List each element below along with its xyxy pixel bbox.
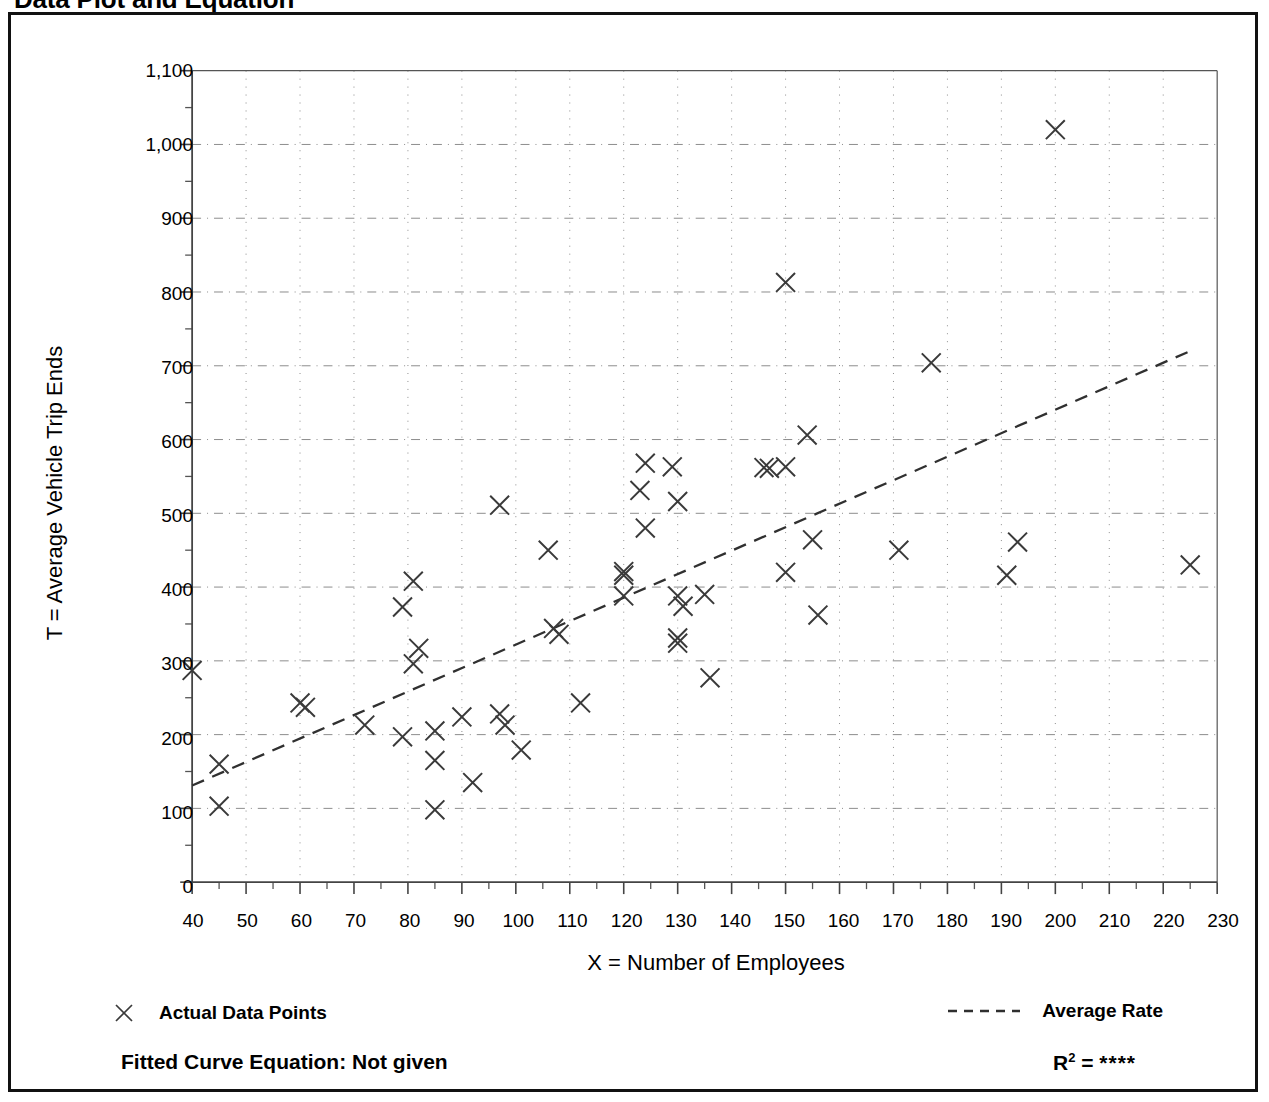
y-tick-label: 1,100 <box>145 60 193 82</box>
figure-frame: 01002003004005006007008009001,0001,100 4… <box>8 12 1258 1092</box>
x-tick-label: 140 <box>719 910 751 932</box>
y-tick-label: 500 <box>161 505 193 527</box>
r-squared-label: R <box>1053 1051 1068 1074</box>
x-tick-label: 40 <box>182 910 203 932</box>
x-axis-title: X = Number of Employees <box>201 950 1231 976</box>
legend-label-average-rate: Average Rate <box>1042 1000 1163 1022</box>
axis-minor-ticks <box>185 108 1190 890</box>
x-tick-label: 230 <box>1207 910 1239 932</box>
y-tick-label: 200 <box>161 728 193 750</box>
legend-item-actual-points: Actual Data Points <box>111 1000 327 1026</box>
plot-area-border <box>192 71 1217 882</box>
x-tick-label: 90 <box>453 910 474 932</box>
x-tick-label: 190 <box>990 910 1022 932</box>
y-tick-label: 400 <box>161 579 193 601</box>
y-tick-label: 700 <box>161 357 193 379</box>
r-squared-equals: = <box>1075 1051 1099 1074</box>
r-squared-block: R2 = **** <box>1053 1050 1136 1075</box>
y-tick-label: 300 <box>161 653 193 675</box>
x-tick-label: 110 <box>557 910 587 932</box>
x-tick-label: 70 <box>345 910 366 932</box>
y-tick-label: 1,000 <box>145 134 193 156</box>
y-tick-label: 900 <box>161 208 193 230</box>
r-squared-value: **** <box>1099 1051 1136 1074</box>
x-tick-label: 150 <box>773 910 805 932</box>
y-tick-label: 100 <box>161 802 193 824</box>
x-tick-label: 210 <box>1099 910 1131 932</box>
gridlines <box>192 71 1217 882</box>
legend-item-average-rate: Average Rate <box>946 1000 1163 1022</box>
x-tick-label: 170 <box>882 910 914 932</box>
y-axis-title: T = Average Vehicle Trip Ends <box>42 193 68 793</box>
x-marker-icon <box>111 1000 137 1026</box>
y-tick-label: 600 <box>161 431 193 453</box>
chart-legend: Actual Data Points Average Rate <box>11 1000 1261 1034</box>
chart-footer: Fitted Curve Equation: Not given R2 = **… <box>11 1050 1261 1090</box>
x-tick-label: 220 <box>1153 910 1185 932</box>
legend-label-actual-points: Actual Data Points <box>159 1002 327 1024</box>
x-tick-label: 50 <box>237 910 258 932</box>
x-tick-label: 80 <box>399 910 420 932</box>
x-tick-label: 180 <box>936 910 968 932</box>
y-tick-label: 0 <box>182 876 193 898</box>
y-tick-label: 800 <box>161 283 193 305</box>
x-tick-label: 160 <box>828 910 860 932</box>
average-rate-trendline <box>192 351 1190 786</box>
x-tick-label: 120 <box>611 910 643 932</box>
dashed-line-icon <box>946 1004 1022 1018</box>
fitted-curve-equation: Fitted Curve Equation: Not given <box>121 1050 448 1074</box>
data-point-markers <box>183 120 1200 819</box>
x-tick-label: 200 <box>1045 910 1077 932</box>
axis-major-ticks <box>180 71 1217 894</box>
x-tick-label: 100 <box>502 910 534 932</box>
x-axis-tick-labels: 4050607080901001101201301401501601701801… <box>11 910 1255 938</box>
x-tick-label: 130 <box>665 910 697 932</box>
x-tick-label: 60 <box>291 910 312 932</box>
